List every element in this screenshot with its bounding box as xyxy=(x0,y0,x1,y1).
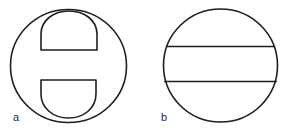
panel-b: b xyxy=(161,9,278,123)
panel-a-outer-circle xyxy=(11,10,127,123)
panel-a-label: a xyxy=(13,111,20,123)
figure: a b xyxy=(0,0,287,132)
panel-b-label: b xyxy=(161,111,167,123)
panel-a-lower-half-disc xyxy=(41,80,96,118)
panel-a-upper-half-disc xyxy=(41,11,97,50)
panel-a: a xyxy=(11,10,127,124)
panel-b-outer-circle xyxy=(164,9,278,122)
